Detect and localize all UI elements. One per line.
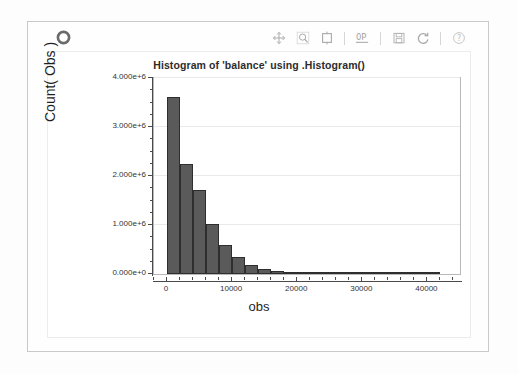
histogram-bar: [362, 272, 375, 274]
toolbar-button-group: 0P: [271, 28, 466, 48]
x-axis-minor-tick: [257, 277, 258, 280]
axes-config-tool-icon[interactable]: 0P: [355, 30, 370, 46]
y-axis-minor-tick: [150, 261, 153, 262]
x-axis-tick-label: 10000: [220, 284, 242, 293]
histogram-bar: [401, 272, 414, 274]
histogram-bar: [310, 272, 323, 274]
plot-window-card: 0P: [27, 21, 489, 352]
zoom-tool-icon[interactable]: [295, 30, 310, 46]
x-axis-minor-tick: [283, 277, 284, 280]
histogram-bar: [219, 245, 232, 274]
x-axis-major-tick: [296, 277, 297, 282]
ring-logo-icon: [56, 30, 71, 45]
y-axis-major-tick: [148, 77, 153, 78]
x-axis-minor-tick: [374, 277, 375, 280]
histogram-bar: [167, 97, 180, 274]
x-axis-minor-tick: [270, 277, 271, 280]
x-axis-minor-tick: [192, 277, 193, 280]
y-axis-major-tick: [148, 126, 153, 127]
y-axis-major-tick: [148, 175, 153, 176]
chart-title: Histogram of 'balance' using .Histogram(…: [48, 59, 470, 71]
histogram-bar: [388, 272, 401, 274]
x-axis-minor-tick: [348, 277, 349, 280]
histogram-bar: [297, 272, 310, 274]
x-axis-minor-tick: [400, 277, 401, 280]
x-axis-major-tick: [426, 277, 427, 282]
help-tool-icon[interactable]: ?: [451, 30, 466, 46]
y-axis-minor-tick: [150, 114, 153, 115]
histogram-bar: [427, 272, 440, 274]
y-axis-tick-label: 2.000e+6: [80, 170, 146, 179]
svg-text:?: ?: [456, 34, 460, 43]
x-axis-minor-tick: [179, 277, 180, 280]
x-axis-tick-label: 40000: [415, 284, 437, 293]
x-axis-major-tick: [166, 277, 167, 282]
x-axis-tick-label: 30000: [350, 284, 372, 293]
y-axis-minor-tick: [150, 163, 153, 164]
reset-tool-icon[interactable]: [415, 30, 430, 46]
y-axis-major-tick: [148, 273, 153, 274]
x-axis: [153, 281, 462, 282]
toolbar-separator-3: [440, 32, 441, 45]
histogram-bar: [193, 190, 206, 274]
toolbar-separator-1: [344, 32, 345, 45]
x-axis-minor-tick: [309, 277, 310, 280]
y-axis-tick-label: 4.000e+6: [80, 72, 146, 81]
x-axis-tick-label: 0: [164, 284, 168, 293]
histogram-bar: [323, 272, 336, 274]
plot-toolbar: 0P: [28, 22, 488, 53]
y-axis-minor-tick: [150, 212, 153, 213]
svg-text:0P: 0P: [356, 32, 366, 42]
x-axis-title: obs: [48, 299, 470, 314]
y-axis-minor-tick: [150, 187, 153, 188]
histogram-bar: [414, 272, 427, 274]
screenshot-root: 0P: [0, 0, 518, 374]
histogram-bar: [271, 271, 284, 274]
pan-tool-icon[interactable]: [271, 30, 286, 46]
x-axis-minor-tick: [244, 277, 245, 280]
x-axis-minor-tick: [335, 277, 336, 280]
y-axis-minor-tick: [150, 89, 153, 90]
y-axis-minor-tick: [150, 200, 153, 201]
y-axis-major-tick: [148, 224, 153, 225]
y-axis-title: Count( Obs ): [42, 42, 58, 122]
save-tool-icon[interactable]: [391, 30, 406, 46]
x-axis-minor-tick: [322, 277, 323, 280]
y-axis-tick-label: 3.000e+6: [80, 121, 146, 130]
plot-panel[interactable]: Histogram of 'balance' using .Histogram(…: [47, 51, 471, 338]
y-axis-minor-tick: [150, 138, 153, 139]
x-axis-tick-label: 20000: [285, 284, 307, 293]
x-axis-minor-tick: [205, 277, 206, 280]
histogram-bar: [336, 272, 349, 274]
y-axis: [152, 77, 153, 276]
x-axis-minor-tick: [218, 277, 219, 280]
histogram-bar: [375, 272, 388, 274]
histogram-bar: [245, 265, 258, 274]
x-axis-major-tick: [231, 277, 232, 282]
x-axis-minor-tick: [387, 277, 388, 280]
toolbar-separator-2: [380, 32, 381, 45]
histogram-bar: [284, 272, 297, 274]
y-axis-minor-tick: [150, 236, 153, 237]
x-axis-minor-tick: [439, 277, 440, 280]
y-axis-tick-label: 0.000e+0: [80, 268, 146, 277]
x-axis-minor-tick: [452, 277, 453, 280]
histogram-bar: [206, 224, 219, 274]
y-axis-minor-tick: [150, 151, 153, 152]
x-axis-minor-tick: [413, 277, 414, 280]
y-axis-tick-label: 1.000e+6: [80, 219, 146, 228]
box-select-tool-icon[interactable]: [319, 30, 334, 46]
histogram-bar: [232, 257, 245, 274]
histogram-bar: [180, 164, 193, 274]
y-axis-minor-tick: [150, 249, 153, 250]
histogram-bars: [154, 78, 460, 274]
plot-area[interactable]: [153, 77, 461, 275]
histogram-bar: [349, 272, 362, 274]
histogram-bar: [258, 269, 271, 274]
y-axis-minor-tick: [150, 102, 153, 103]
x-axis-minor-tick: [153, 277, 154, 280]
x-axis-major-tick: [361, 277, 362, 282]
